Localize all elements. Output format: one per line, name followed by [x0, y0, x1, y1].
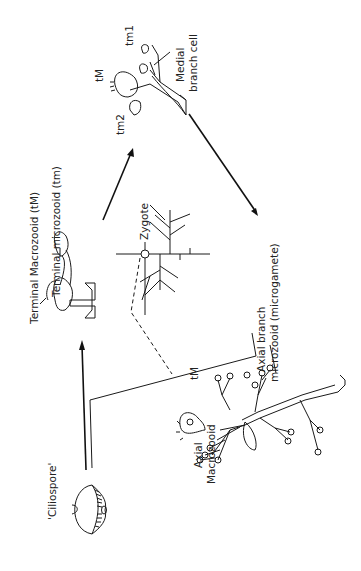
terminal-macrozooid-label: Terminal Macrozooid (tM)	[28, 192, 40, 325]
tM-colony-label: tM	[188, 367, 200, 380]
pointer-axial-macrozooid	[217, 427, 240, 440]
ciliospore-label: 'Ciliospore'	[46, 463, 58, 520]
medial-branch-label-2: branch cell	[187, 34, 199, 92]
ciliospore-figure	[72, 485, 107, 534]
arrow-branching-to-mature	[189, 114, 258, 216]
tM-top-label: tM	[93, 69, 105, 82]
arrow-ciliospore-to-young	[79, 340, 86, 470]
medial-branch-label-1: Medial	[174, 48, 186, 82]
pointer-tM	[40, 298, 46, 304]
axial-branch-label-1: Axial branch	[255, 306, 267, 372]
life-cycle-diagram: 'Ciliospore' Terminal Macrozooid (tM) Te…	[0, 0, 361, 571]
axial-macrozooid-label-2: Macrozooid	[205, 424, 217, 484]
zygote-figure	[116, 205, 210, 315]
axial-branch-label-2: microzooid (microgamete)	[268, 243, 280, 382]
axial-macrozooid-label-1: Axial	[192, 442, 204, 468]
terminal-microzooid-label: Terminal microzooid (tm)	[50, 166, 62, 298]
zygote-label: Zygote	[138, 203, 150, 240]
connector-line	[90, 333, 256, 468]
arrow-young-to-branching	[103, 148, 134, 220]
tm1-label: tm1	[123, 25, 135, 46]
pointer-medial	[154, 52, 170, 65]
tm2-label: tm2	[114, 114, 126, 135]
